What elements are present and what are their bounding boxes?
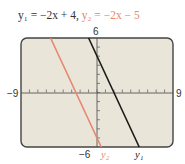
- series-label-y1: y₁: [134, 149, 143, 160]
- ymax-label: 6: [93, 26, 99, 37]
- xmin-label: −9: [7, 88, 19, 99]
- series-label-y2: y₂: [100, 149, 110, 160]
- ymin-label: −6: [79, 149, 91, 160]
- graph-window: −9 9 6 −6 y₂ y₁: [0, 0, 185, 164]
- xmax-label: 9: [176, 88, 182, 99]
